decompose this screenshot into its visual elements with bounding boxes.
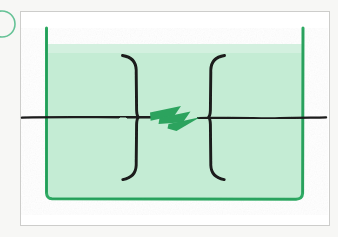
circuit-line-right [198, 117, 326, 118]
circuit-line-left [22, 117, 152, 118]
figure-canvas [0, 0, 338, 237]
vessel-bottom-core [52, 199, 296, 200]
diagram-svg [0, 0, 338, 237]
liquid-surface-haze [47, 44, 302, 53]
